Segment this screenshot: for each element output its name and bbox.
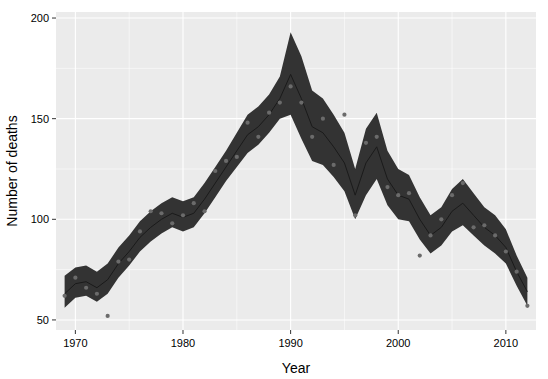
x-axis-title: Year <box>282 360 311 376</box>
y-axis-title: Number of deaths <box>4 115 20 226</box>
y-tick-label-50: 50 <box>37 314 49 326</box>
chart-container: 19701980199020002010 50100150200 Year Nu… <box>0 0 548 379</box>
x-tick-label-1990: 1990 <box>278 337 302 349</box>
y-tick-label-200: 200 <box>31 12 49 24</box>
x-tick-label-2010: 2010 <box>494 337 518 349</box>
deaths-by-year-chart: 19701980199020002010 50100150200 Year Nu… <box>0 0 548 379</box>
x-tick-label-2000: 2000 <box>386 337 410 349</box>
x-tick-label-1970: 1970 <box>63 337 87 349</box>
x-tick-label-1980: 1980 <box>171 337 195 349</box>
y-tick-label-150: 150 <box>31 113 49 125</box>
y-tick-label-100: 100 <box>31 213 49 225</box>
